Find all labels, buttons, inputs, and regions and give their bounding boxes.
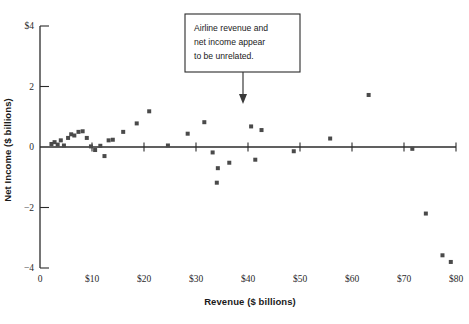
- y-tick-label: 0: [29, 142, 34, 152]
- data-point-marker: [211, 150, 215, 154]
- y-tick-label: −2: [24, 203, 34, 213]
- annotation-line-3: to be unrelated.: [194, 51, 254, 61]
- data-point-marker: [424, 212, 428, 216]
- annotation-line-2: net income appear: [194, 37, 265, 47]
- data-point-marker: [292, 149, 296, 153]
- y-axis-title: Net Income ($ billions): [2, 98, 13, 202]
- data-point-marker: [111, 138, 115, 142]
- data-point-marker: [89, 144, 93, 148]
- data-point-marker: [102, 154, 106, 158]
- data-point-marker: [62, 143, 66, 147]
- x-tick-label: $10: [85, 274, 100, 284]
- data-point-marker: [135, 121, 139, 125]
- x-tick-label: $70: [397, 274, 412, 284]
- data-point-marker: [249, 124, 253, 128]
- data-point-marker: [98, 144, 102, 148]
- x-axis-title-text: Revenue ($ billions): [204, 296, 296, 307]
- data-point-marker: [367, 93, 371, 97]
- data-point-marker: [107, 138, 111, 142]
- scatter-plot-figure: Net Income ($ billions) Revenue ($ billi…: [0, 0, 469, 324]
- y-axis-title-text: Net Income ($ billions): [2, 98, 13, 202]
- x-tick-label: $30: [189, 274, 204, 284]
- data-point-marker: [76, 130, 80, 134]
- data-point-marker: [85, 136, 89, 140]
- annotation-callout: Airline revenue and net income appear to…: [185, 14, 300, 104]
- x-tick-label: $50: [293, 274, 308, 284]
- data-point-marker: [227, 161, 231, 165]
- y-tick-label: −4: [24, 263, 34, 273]
- data-point-marker: [410, 147, 414, 151]
- x-tick-label: $40: [241, 274, 256, 284]
- plot-canvas: Net Income ($ billions) Revenue ($ billi…: [0, 0, 469, 324]
- x-axis-title: Revenue ($ billions): [204, 296, 296, 307]
- data-point-marker: [215, 181, 219, 185]
- data-point-marker: [147, 109, 151, 113]
- x-tick-label: $60: [345, 274, 360, 284]
- data-point-marker: [440, 253, 444, 257]
- data-point-marker: [328, 137, 332, 141]
- data-point-marker: [260, 128, 264, 132]
- data-points-layer: [49, 93, 452, 264]
- data-point-marker: [202, 120, 206, 124]
- data-point-marker: [81, 129, 85, 133]
- data-point-marker: [166, 143, 170, 147]
- x-tick-label: $20: [137, 274, 152, 284]
- y-tick-label: 2: [29, 82, 34, 92]
- x-tick-label: 0: [38, 274, 43, 284]
- data-point-marker: [66, 136, 70, 140]
- data-point-marker: [56, 143, 60, 147]
- down-arrow-icon: [239, 94, 247, 104]
- x-tick-label: $80: [449, 274, 464, 284]
- data-point-marker: [186, 132, 190, 136]
- data-point-marker: [449, 260, 453, 264]
- data-point-marker: [216, 166, 220, 170]
- data-point-marker: [93, 148, 97, 152]
- data-point-marker: [59, 138, 63, 142]
- data-point-marker: [121, 130, 125, 134]
- data-point-marker: [253, 158, 257, 162]
- y-tick-label: $4: [25, 21, 35, 31]
- data-point-marker: [72, 134, 76, 138]
- annotation-line-1: Airline revenue and: [194, 23, 268, 33]
